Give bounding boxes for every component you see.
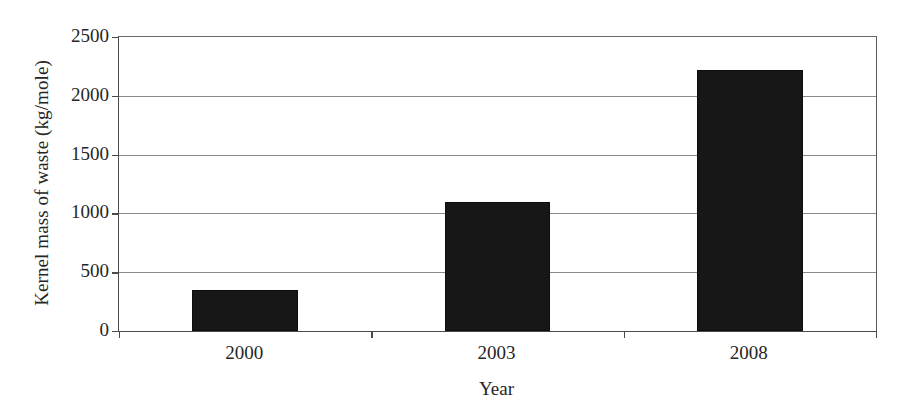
plot-area xyxy=(118,36,877,332)
x-axis-tick-mark xyxy=(624,331,625,338)
y-axis-tick-mark xyxy=(112,213,119,214)
x-axis-tick-labels: 200020032008 xyxy=(118,342,875,376)
bar xyxy=(445,202,551,331)
y-axis-tick-mark xyxy=(112,272,119,273)
y-axis-tick-mark xyxy=(112,331,119,332)
x-axis-tick-mark xyxy=(119,331,120,338)
x-axis-tick-mark xyxy=(876,331,877,338)
x-axis-tick-mark xyxy=(371,331,372,338)
x-axis-tick-label: 2000 xyxy=(225,342,263,364)
y-axis-tick-label: 2500 xyxy=(0,25,118,47)
y-axis-tick-mark xyxy=(112,96,119,97)
x-axis-tick-label: 2003 xyxy=(478,342,516,364)
bar xyxy=(192,290,298,331)
x-axis-title: Year xyxy=(118,378,875,400)
bar-chart-figure: Kernel mass of waste (kg/mole) 050010001… xyxy=(0,0,907,420)
x-axis-tick-label: 2008 xyxy=(730,342,768,364)
y-axis-tick-label: 2000 xyxy=(0,84,118,106)
y-axis-tick-label: 0 xyxy=(0,319,118,341)
y-axis-tick-mark xyxy=(112,37,119,38)
y-axis-tick-label: 1000 xyxy=(0,201,118,223)
y-axis-tick-mark xyxy=(112,155,119,156)
y-axis-tick-label: 1500 xyxy=(0,143,118,165)
y-axis-tick-labels: 05001000150020002500 xyxy=(0,0,118,420)
y-axis-tick-label: 500 xyxy=(0,260,118,282)
bar xyxy=(697,70,803,331)
